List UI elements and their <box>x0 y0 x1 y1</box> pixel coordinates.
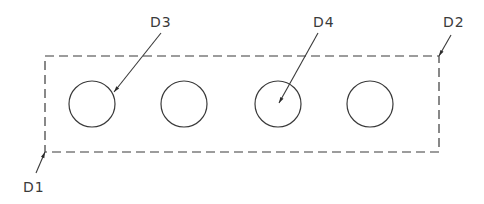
cad-drawing: D1D2D3D4 <box>0 0 484 204</box>
label-d4: D4 <box>313 14 335 30</box>
leader-arrow-d2 <box>439 35 451 56</box>
hole-circle-3 <box>255 81 301 127</box>
label-d3: D3 <box>150 14 172 30</box>
label-d2: D2 <box>443 14 465 30</box>
hole-circle-4 <box>347 81 393 127</box>
dimension-labels: D1D2D3D4 <box>23 14 465 195</box>
leader-arrow-d3 <box>114 33 161 92</box>
dashed-boundary-rectangle <box>45 56 439 152</box>
hole-circle-1 <box>69 81 115 127</box>
label-d1: D1 <box>23 179 45 195</box>
leader-arrow-d1 <box>36 152 45 173</box>
hole-circle-2 <box>161 81 207 127</box>
